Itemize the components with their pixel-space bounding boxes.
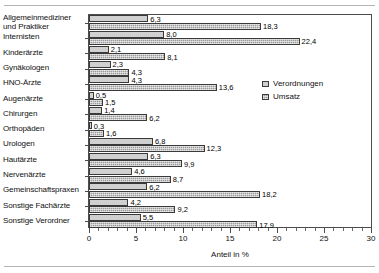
bar-value-label: 4,3 — [131, 69, 141, 76]
bar-value-label: 9,2 — [177, 206, 187, 213]
bar-value-label: 6,2 — [149, 184, 159, 191]
plot-area: 6,318,38,022,42,18,12,34,34,313,60,51,51… — [88, 14, 372, 228]
x-tick-minor — [305, 228, 306, 231]
bar-value-label: 5,5 — [143, 214, 153, 221]
legend-label: Verordnungen — [273, 78, 323, 89]
x-tick-minor — [192, 228, 193, 231]
x-tick-minor — [239, 228, 240, 231]
category-label: Hautärzte — [3, 155, 84, 164]
bar-verordnungen — [89, 15, 148, 22]
x-tick-minor — [249, 228, 250, 231]
x-tick-label: 5 — [134, 234, 138, 243]
bar-verordnungen — [89, 46, 109, 53]
bar-verordnungen — [89, 92, 94, 99]
bar-value-label: 12,3 — [207, 145, 222, 152]
bar-verordnungen — [89, 183, 147, 190]
x-tick-minor — [258, 228, 259, 231]
x-tick-minor — [352, 228, 353, 231]
bar-verordnungen — [89, 122, 92, 129]
x-tick-minor — [286, 228, 287, 231]
x-tick-major — [89, 228, 90, 233]
bar-umsatz — [89, 69, 129, 76]
x-tick-label: 30 — [367, 234, 376, 243]
x-tick-minor — [174, 228, 175, 231]
category-label: Sonstige Verordner — [3, 216, 84, 225]
x-tick-minor — [268, 228, 269, 231]
category-label: Kinderärzte — [3, 48, 84, 57]
x-tick-label: 25 — [320, 234, 329, 243]
x-tick-major — [136, 228, 137, 233]
bar-umsatz — [89, 206, 175, 213]
x-axis-ticks — [88, 228, 372, 233]
bar-value-label: 9,9 — [184, 161, 194, 168]
bar-umsatz — [89, 130, 104, 137]
bar-value-label: 6,3 — [150, 16, 160, 23]
bar-umsatz — [89, 23, 261, 30]
x-tick-minor — [98, 228, 99, 231]
x-tick-minor — [145, 228, 146, 231]
x-tick-minor — [211, 228, 212, 231]
bar-verordnungen — [89, 138, 153, 145]
bar-verordnungen — [89, 61, 111, 68]
bar-value-label: 1,6 — [106, 130, 116, 137]
x-tick-minor — [155, 228, 156, 231]
category-label: Sonstige Fachärzte — [3, 201, 84, 210]
bar-umsatz — [89, 53, 165, 60]
bar-umsatz — [89, 191, 260, 198]
category-label: Internisten — [3, 32, 84, 41]
x-tick-minor — [315, 228, 316, 231]
bar-value-label: 6,8 — [155, 138, 165, 145]
bar-value-label: 18,2 — [262, 191, 277, 198]
x-tick-major — [371, 228, 372, 233]
x-tick-minor — [108, 228, 109, 231]
bar-value-label: 13,6 — [219, 84, 234, 91]
bar-value-label: 2,1 — [111, 46, 121, 53]
bar-verordnungen — [89, 31, 164, 38]
category-label: Nervenärzte — [3, 170, 84, 179]
x-axis-tick-labels: 051015202530 — [88, 234, 372, 246]
bar-value-label: 4,3 — [131, 77, 141, 84]
bar-value-label: 4,2 — [130, 199, 140, 206]
x-tick-minor — [202, 228, 203, 231]
x-tick-label: 15 — [226, 234, 235, 243]
bar-umsatz — [89, 114, 147, 121]
x-axis-title: Anteil in % — [88, 250, 372, 259]
category-label: Gemeinschaftspraxen — [3, 185, 84, 194]
x-tick-major — [230, 228, 231, 233]
bar-value-label: 0,3 — [94, 123, 104, 130]
x-tick-minor — [343, 228, 344, 231]
bar-verordnungen — [89, 214, 141, 221]
x-tick-minor — [362, 228, 363, 231]
bar-value-label: 2,3 — [113, 61, 123, 68]
bar-value-label: 4,6 — [134, 168, 144, 175]
legend-swatch-umsatz — [262, 94, 269, 100]
bottom-divider — [4, 266, 375, 267]
bar-value-label: 8,1 — [167, 54, 177, 61]
bar-umsatz — [89, 84, 217, 91]
x-tick-minor — [296, 228, 297, 231]
bar-verordnungen — [89, 153, 148, 160]
legend-label: Umsatz — [273, 91, 300, 102]
x-tick-minor — [117, 228, 118, 231]
x-tick-label: 0 — [87, 234, 91, 243]
bar-value-label: 8,0 — [166, 31, 176, 38]
bar-umsatz — [89, 38, 300, 45]
legend-item-verordnungen: Verordnungen — [262, 78, 323, 89]
x-tick-minor — [221, 228, 222, 231]
bar-verordnungen — [89, 199, 128, 206]
x-tick-major — [183, 228, 184, 233]
x-tick-minor — [164, 228, 165, 231]
category-label: Allgemeinmedizinerund Praktiker — [3, 13, 84, 31]
bar-verordnungen — [89, 107, 102, 114]
bar-value-label: 6,3 — [150, 153, 160, 160]
bar-value-label: 8,7 — [173, 176, 183, 183]
category-label: Augenärzte — [3, 94, 84, 103]
x-tick-major — [324, 228, 325, 233]
category-label: Urologen — [3, 139, 84, 148]
chart-legend: VerordnungenUmsatz — [262, 78, 323, 104]
bar-verordnungen — [89, 76, 129, 83]
bar-umsatz — [89, 99, 103, 106]
category-label: Chirurgen — [3, 109, 84, 118]
x-tick-label: 20 — [273, 234, 282, 243]
category-label: HNO-Ärzte — [3, 78, 84, 87]
